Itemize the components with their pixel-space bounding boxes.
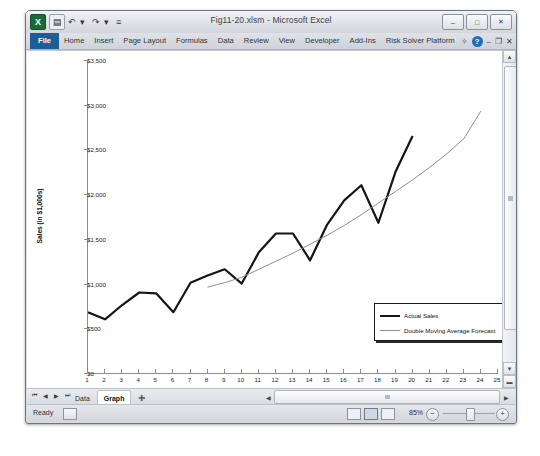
- close-button[interactable]: ✕: [490, 14, 512, 30]
- legend-entry-forecast: Double Moving Average Forecast: [380, 327, 495, 334]
- window-controls[interactable]: – □ ✕: [442, 14, 512, 30]
- zoom-out-button[interactable]: −: [426, 408, 439, 421]
- x-tick-mark: [343, 369, 344, 374]
- scroll-up-button[interactable]: ▲: [503, 50, 516, 63]
- sheet-tab-bar: ⏮ ◀ ▶ ⏭ Data Graph ➕ ◀ ▶: [27, 388, 515, 405]
- sheet-nav-buttons[interactable]: ⏮ ◀ ▶ ⏭: [30, 392, 71, 399]
- y-tick-mark: [84, 239, 89, 240]
- x-tick-label: 22: [442, 376, 449, 383]
- x-tick-label: 20: [408, 376, 415, 383]
- page-layout-view-button[interactable]: [364, 408, 378, 420]
- x-tick-label: 6: [171, 376, 174, 383]
- x-tick-label: 5: [154, 376, 157, 383]
- x-tick-mark: [104, 369, 105, 374]
- legend-swatch-forecast: [380, 330, 400, 331]
- restore-button[interactable]: □: [466, 14, 488, 30]
- x-tick-label: 3: [119, 376, 122, 383]
- y-tick-mark: [84, 105, 89, 106]
- scroll-left-button[interactable]: ◀: [262, 391, 274, 403]
- x-tick-mark: [275, 369, 276, 374]
- x-tick-mark: [258, 369, 259, 374]
- sheet-tabs[interactable]: Data Graph ➕: [69, 390, 151, 405]
- x-tick-mark: [292, 369, 293, 374]
- tab-add-ins[interactable]: Add-Ins: [345, 33, 381, 49]
- prev-sheet-button[interactable]: ◀: [41, 392, 49, 399]
- tab-data[interactable]: Data: [213, 33, 239, 49]
- ribbon-tab-bar: File Home Insert Page Layout Formulas Da…: [26, 33, 516, 50]
- x-tick-label: 15: [323, 376, 330, 383]
- vertical-scrollbar[interactable]: ▲ ▼ ▬: [502, 50, 516, 388]
- x-tick-label: 7: [188, 376, 191, 383]
- x-tick-label: 18: [374, 376, 381, 383]
- y-axis-title: Sales (in $1,000s): [36, 189, 43, 244]
- zoom-level-label[interactable]: 85%: [409, 409, 423, 416]
- title-bar: X ▤ ↶ ▾ ↷ ▾ ≡ Fig11-20.xlsm - Microsoft …: [26, 11, 516, 33]
- x-tick-mark: [446, 369, 447, 374]
- x-tick-label: 11: [255, 376, 261, 383]
- y-tick-mark: [84, 60, 89, 61]
- restore-workbook-icon[interactable]: ❐: [495, 37, 502, 46]
- tab-formulas[interactable]: Formulas: [171, 33, 213, 49]
- x-tick-label: 2: [102, 376, 105, 383]
- y-tick-mark: [84, 328, 89, 329]
- zoom-in-button[interactable]: +: [496, 408, 509, 421]
- ribbon-right-controls[interactable]: ✧ ? – ❐ ✕: [461, 34, 513, 48]
- scroll-right-button[interactable]: ▶: [500, 391, 512, 403]
- zoom-slider-knob[interactable]: [466, 408, 475, 421]
- x-tick-mark: [463, 369, 464, 374]
- status-bar: Ready 85% − +: [27, 404, 515, 422]
- collapse-ribbon-icon[interactable]: ✧: [461, 37, 468, 46]
- x-tick-mark: [138, 369, 139, 374]
- chart-legend[interactable]: Actual Sales Double Moving Average Forec…: [374, 303, 511, 341]
- normal-view-button[interactable]: [347, 408, 361, 420]
- x-tick-mark: [412, 369, 413, 374]
- next-sheet-button[interactable]: ▶: [52, 392, 60, 399]
- legend-label-actual-sales: Actual Sales: [404, 312, 438, 319]
- tab-home[interactable]: Home: [59, 33, 89, 49]
- x-tick-label: 9: [222, 376, 225, 383]
- split-handle[interactable]: ▬: [503, 375, 516, 388]
- tab-page-layout[interactable]: Page Layout: [118, 33, 171, 49]
- help-icon[interactable]: ?: [472, 36, 483, 47]
- legend-swatch-actual-sales: [380, 315, 400, 317]
- x-tick-mark: [224, 369, 225, 374]
- tab-view[interactable]: View: [274, 33, 300, 49]
- y-tick-mark: [84, 284, 89, 285]
- x-tick-label: 4: [137, 376, 140, 383]
- horizontal-scroll-thumb[interactable]: [274, 390, 500, 404]
- record-macro-icon[interactable]: [63, 408, 77, 420]
- x-tick-mark: [121, 369, 122, 374]
- tab-review[interactable]: Review: [239, 33, 274, 49]
- hscroll-thumb-grip: [385, 395, 390, 399]
- x-tick-label: 1: [85, 376, 88, 383]
- ribbon-tabs[interactable]: File Home Insert Page Layout Formulas Da…: [30, 33, 460, 49]
- tab-risk-solver-platform[interactable]: Risk Solver Platform: [381, 33, 460, 49]
- x-tick-label: 24: [476, 376, 483, 383]
- horizontal-scrollbar[interactable]: ◀ ▶: [262, 391, 512, 403]
- page-break-view-button[interactable]: [381, 408, 395, 420]
- insert-sheet-icon[interactable]: ➕: [132, 391, 151, 405]
- tab-insert[interactable]: Insert: [89, 33, 118, 49]
- x-tick-mark: [190, 369, 191, 374]
- first-sheet-button[interactable]: ⏮: [30, 392, 38, 399]
- tab-file[interactable]: File: [30, 33, 59, 49]
- vertical-scroll-thumb[interactable]: [504, 66, 517, 330]
- sheet-tab-graph[interactable]: Graph: [97, 390, 132, 405]
- scroll-down-button[interactable]: ▼: [503, 362, 516, 375]
- sheet-tab-data[interactable]: Data: [69, 391, 96, 405]
- excel-window: X ▤ ↶ ▾ ↷ ▾ ≡ Fig11-20.xlsm - Microsoft …: [25, 10, 517, 424]
- x-tick-mark: [377, 369, 378, 374]
- screenshot-root: X ▤ ↶ ▾ ↷ ▾ ≡ Fig11-20.xlsm - Microsoft …: [0, 0, 540, 456]
- minimize-workbook-icon[interactable]: –: [487, 37, 491, 46]
- series-line-actual-sales[interactable]: [88, 136, 413, 319]
- x-tick-label: 23: [459, 376, 466, 383]
- x-tick-label: 8: [205, 376, 208, 383]
- close-workbook-icon[interactable]: ✕: [506, 37, 513, 46]
- minimize-button[interactable]: –: [442, 14, 464, 30]
- y-tick-mark: [84, 194, 89, 195]
- tab-developer[interactable]: Developer: [300, 33, 345, 49]
- x-tick-mark: [155, 369, 156, 374]
- view-buttons[interactable]: [347, 408, 395, 420]
- chart-canvas[interactable]: Sales (in $1,000s) $0$500$1,000$1,500$2,…: [37, 56, 503, 386]
- x-tick-label: 25: [494, 376, 501, 383]
